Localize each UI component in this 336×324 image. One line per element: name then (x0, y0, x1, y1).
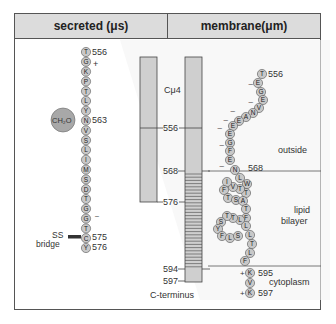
svg-text:V: V (84, 127, 89, 134)
residue-bead: T (81, 224, 90, 233)
residue-bead: M (81, 165, 90, 174)
svg-text:Y: Y (216, 225, 221, 232)
svg-text:G: G (83, 215, 88, 222)
residue-bead: F (240, 256, 249, 265)
residue-bead: L (225, 233, 234, 242)
svg-text:N: N (84, 117, 89, 124)
svg-text:E: E (228, 130, 233, 137)
svg-text:G: G (83, 58, 88, 65)
svg-text:P: P (84, 78, 88, 85)
residue-bead: T (81, 87, 90, 96)
residue-bead: L (81, 96, 90, 105)
svg-text:S: S (84, 176, 89, 183)
tick-594: 594 (163, 264, 178, 274)
minus-charge: – (224, 115, 229, 124)
minus-charge: – (220, 161, 225, 170)
residue-bead: T (81, 194, 90, 203)
minus-charge: – (249, 97, 254, 106)
residue-bead: T (247, 239, 256, 248)
minus-charge: – (218, 123, 223, 132)
ss-site-575: 575 (92, 232, 107, 242)
tick-597: 597 (163, 276, 178, 286)
svg-text:G: G (83, 205, 88, 212)
svg-text:E: E (261, 96, 266, 103)
residue-bead: L (81, 145, 90, 154)
svg-text:G: G (227, 139, 232, 146)
residue-bead: K (245, 268, 254, 277)
svg-text:T: T (225, 212, 229, 219)
residue-bead: G (256, 87, 265, 96)
membrane-boundary-568: 568 (248, 163, 263, 173)
svg-text:T: T (238, 185, 242, 192)
region-bilayer: bilayer (281, 216, 308, 226)
residue-bead: T (223, 193, 232, 202)
membrane-bar (185, 57, 202, 282)
svg-text:S: S (236, 232, 241, 239)
tick-576: 576 (163, 197, 178, 207)
residue-bead: K (81, 67, 90, 76)
svg-text:K: K (84, 68, 89, 75)
c-terminus-label: C-terminus (150, 290, 195, 300)
residue-bead: K (245, 288, 254, 297)
residue-bead: F (225, 146, 234, 155)
secreted-chain: TGKPTLYNVSLIMSDTGGTCY (81, 47, 90, 252)
svg-text:V: V (248, 279, 253, 286)
tick-568: 568 (163, 166, 178, 176)
svg-text:W: W (244, 180, 251, 187)
svg-text:N: N (251, 109, 256, 116)
residue-bead: N (81, 116, 90, 125)
region-cytoplasm: cytoplasm (269, 277, 310, 287)
svg-text:F: F (220, 232, 224, 239)
minus-charge: – (249, 79, 254, 88)
minus-charge: – (220, 140, 225, 149)
svg-text:L: L (238, 174, 242, 181)
carbohydrate-label: CH₂O (52, 116, 72, 125)
svg-text:G: G (258, 88, 263, 95)
residue-bead: E (253, 78, 262, 87)
svg-text:L: L (248, 249, 252, 256)
residue-bead: I (81, 155, 90, 164)
k595-plus: + (240, 269, 245, 278)
svg-text:S: S (234, 196, 239, 203)
residue-bead: L (241, 221, 250, 230)
svg-text:T: T (226, 194, 230, 201)
ss-bridge-bar (68, 235, 81, 239)
residue-bead: L (245, 248, 254, 257)
svg-text:L: L (244, 222, 248, 229)
svg-text:L: L (248, 231, 252, 238)
svg-text:E: E (256, 79, 261, 86)
protein-diagram: Cμ4 556 568 576 594 597 C-terminus CH₂O … (0, 0, 336, 324)
k597-plus: + (240, 289, 245, 298)
svg-text:F: F (222, 186, 226, 193)
residue-bead: E (225, 155, 234, 164)
residue-bead: D (81, 185, 90, 194)
residue-bead: P (81, 77, 90, 86)
svg-text:F: F (228, 147, 232, 154)
svg-text:Y: Y (84, 107, 89, 114)
residue-bead: Y (81, 106, 90, 115)
secreted-end-576: 576 (92, 242, 107, 252)
svg-text:L: L (84, 97, 88, 104)
residue-bead: G (81, 214, 90, 223)
svg-text:N: N (233, 166, 238, 173)
residue-bead: T (81, 47, 90, 56)
svg-text:I: I (226, 178, 228, 185)
k597-label: 597 (258, 288, 273, 298)
svg-text:T: T (250, 240, 254, 247)
svg-text:A: A (241, 197, 246, 204)
region-outside: outside (278, 145, 307, 155)
svg-text:L: L (238, 216, 242, 223)
residue-bead: C (81, 234, 90, 243)
svg-text:A: A (244, 113, 249, 120)
residue-bead: V (245, 278, 254, 287)
svg-text:S: S (84, 137, 89, 144)
secreted-start-556: 556 (92, 47, 107, 57)
residue-bead: S (81, 175, 90, 184)
svg-text:E: E (231, 122, 236, 129)
residue-bead: T (241, 204, 250, 213)
plus-charge: + (93, 59, 98, 69)
svg-text:T: T (84, 225, 88, 232)
svg-text:V: V (231, 183, 236, 190)
svg-text:C: C (84, 235, 89, 242)
residue-bead: E (225, 129, 234, 138)
